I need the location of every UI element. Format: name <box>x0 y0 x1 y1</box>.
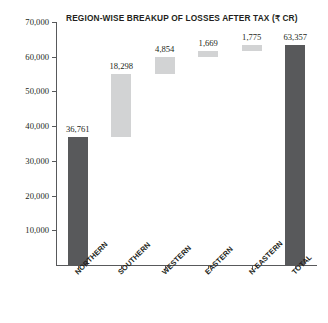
x-axis-label-n-eastern: N-EASTERN <box>247 239 284 276</box>
y-axis-tick-label: 40,000 <box>25 121 49 131</box>
plot-area: 70,00060,00050,00040,00030,00020,00010,0… <box>0 0 328 323</box>
y-axis-tick <box>52 22 57 23</box>
bar-value-label: 4,854 <box>155 44 174 54</box>
y-axis-tick <box>52 161 57 162</box>
waterfall-chart: REGION-WISE BREAKUP OF LOSSES AFTER TAX … <box>0 0 328 323</box>
x-axis-label-southern: SOUTHERN <box>116 240 152 276</box>
x-axis-line <box>56 265 317 266</box>
y-axis-tick <box>52 91 57 92</box>
y-axis-tick <box>52 230 57 231</box>
bar-value-label: 36,761 <box>66 124 90 134</box>
y-axis-tick <box>52 196 57 197</box>
x-axis-label-eastern: EASTERN <box>203 245 235 277</box>
y-axis-tick-label: 60,000 <box>25 52 49 62</box>
y-axis-tick-label: 10,000 <box>25 225 49 235</box>
bar-value-label: 18,298 <box>109 61 133 71</box>
y-axis-tick-label: 20,000 <box>25 191 49 201</box>
bar-northern <box>68 137 88 265</box>
bar-western <box>155 57 175 74</box>
bar-eastern <box>198 51 218 57</box>
x-axis-label-western: WESTERN <box>160 243 193 276</box>
y-axis-tick-label: 50,000 <box>25 86 49 96</box>
bar-southern <box>111 74 131 138</box>
y-axis-tick-label: 70,000 <box>25 17 49 27</box>
bar-value-label: 1,775 <box>242 32 261 42</box>
bar-n-eastern <box>242 45 262 51</box>
bar-total <box>285 45 305 265</box>
bar-value-label: 1,669 <box>199 38 218 48</box>
y-axis-tick <box>52 57 57 58</box>
bar-value-label: 63,357 <box>283 32 307 42</box>
y-axis-tick-label: 30,000 <box>25 156 49 166</box>
y-axis-tick <box>52 126 57 127</box>
